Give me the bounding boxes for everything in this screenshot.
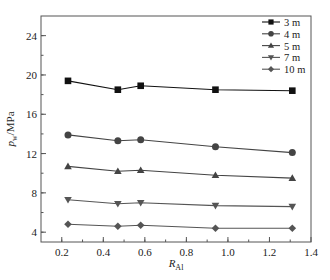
x-axis: 0.20.40.60.81.01.21.4 bbox=[55, 237, 318, 258]
x-tick-label: 0.2 bbox=[55, 246, 69, 258]
y-tick-label: 12 bbox=[26, 148, 37, 160]
series-7m bbox=[64, 197, 296, 210]
y-tick-label: 4 bbox=[32, 226, 38, 238]
circle-marker-icon bbox=[137, 136, 144, 143]
diamond-marker-icon bbox=[64, 221, 72, 229]
legend-item: 5 m bbox=[262, 41, 300, 52]
legend-label: 3 m bbox=[284, 17, 300, 28]
series-line bbox=[68, 135, 292, 153]
y-tick-label: 8 bbox=[32, 187, 38, 199]
line-chart: 0.20.40.60.81.01.21.4 4812162024 3 m4 m5… bbox=[0, 0, 330, 280]
diamond-marker-icon bbox=[289, 224, 297, 232]
diamond-marker-icon bbox=[268, 66, 274, 72]
series-line bbox=[68, 81, 292, 91]
y-axis-label: pw/MPa bbox=[4, 111, 19, 147]
plot-frame bbox=[41, 16, 311, 242]
square-marker-icon bbox=[212, 86, 219, 93]
square-marker-icon bbox=[268, 19, 273, 24]
legend-item: 7 m bbox=[262, 52, 300, 63]
legend-item: 3 m bbox=[262, 17, 300, 28]
circle-marker-icon bbox=[268, 31, 274, 37]
legend-item: 10 m bbox=[262, 64, 305, 75]
x-tick-label: 1.0 bbox=[221, 246, 235, 258]
series-line bbox=[68, 200, 292, 207]
circle-marker-icon bbox=[65, 131, 72, 138]
legend-label: 10 m bbox=[284, 64, 305, 75]
series-3m bbox=[65, 78, 296, 94]
triangle-down-marker-icon bbox=[114, 201, 122, 208]
diamond-marker-icon bbox=[114, 222, 122, 230]
triangle-up-marker-icon bbox=[137, 166, 145, 173]
x-axis-label: RAl bbox=[168, 257, 185, 272]
legend-label: 4 m bbox=[284, 29, 300, 40]
y-tick-label: 16 bbox=[26, 108, 38, 120]
legend: 3 m4 m5 m7 m10 m bbox=[262, 17, 305, 75]
x-tick-label: 0.6 bbox=[138, 246, 152, 258]
circle-marker-icon bbox=[289, 149, 296, 156]
x-tick-label: 1.2 bbox=[263, 246, 277, 258]
legend-label: 5 m bbox=[284, 41, 300, 52]
triangle-up-marker-icon bbox=[64, 163, 72, 170]
series-5m bbox=[64, 163, 296, 181]
x-tick-label: 0.4 bbox=[96, 246, 110, 258]
series-10m bbox=[64, 221, 296, 233]
square-marker-icon bbox=[137, 82, 144, 89]
x-tick-label: 1.4 bbox=[304, 246, 318, 258]
circle-marker-icon bbox=[114, 137, 121, 144]
series-4m bbox=[65, 131, 296, 156]
legend-label: 7 m bbox=[284, 52, 300, 63]
diamond-marker-icon bbox=[137, 221, 145, 229]
square-marker-icon bbox=[65, 78, 72, 85]
y-tick-label: 20 bbox=[26, 69, 38, 81]
diamond-marker-icon bbox=[212, 224, 220, 232]
series-layer bbox=[64, 78, 296, 232]
square-marker-icon bbox=[115, 86, 122, 93]
circle-marker-icon bbox=[212, 143, 219, 150]
x-tick-label: 0.8 bbox=[180, 246, 194, 258]
legend-item: 4 m bbox=[262, 29, 300, 40]
series-line bbox=[68, 166, 292, 178]
y-axis: 4812162024 bbox=[26, 30, 46, 239]
square-marker-icon bbox=[289, 87, 296, 94]
y-tick-label: 24 bbox=[26, 30, 38, 42]
series-line bbox=[68, 224, 292, 228]
